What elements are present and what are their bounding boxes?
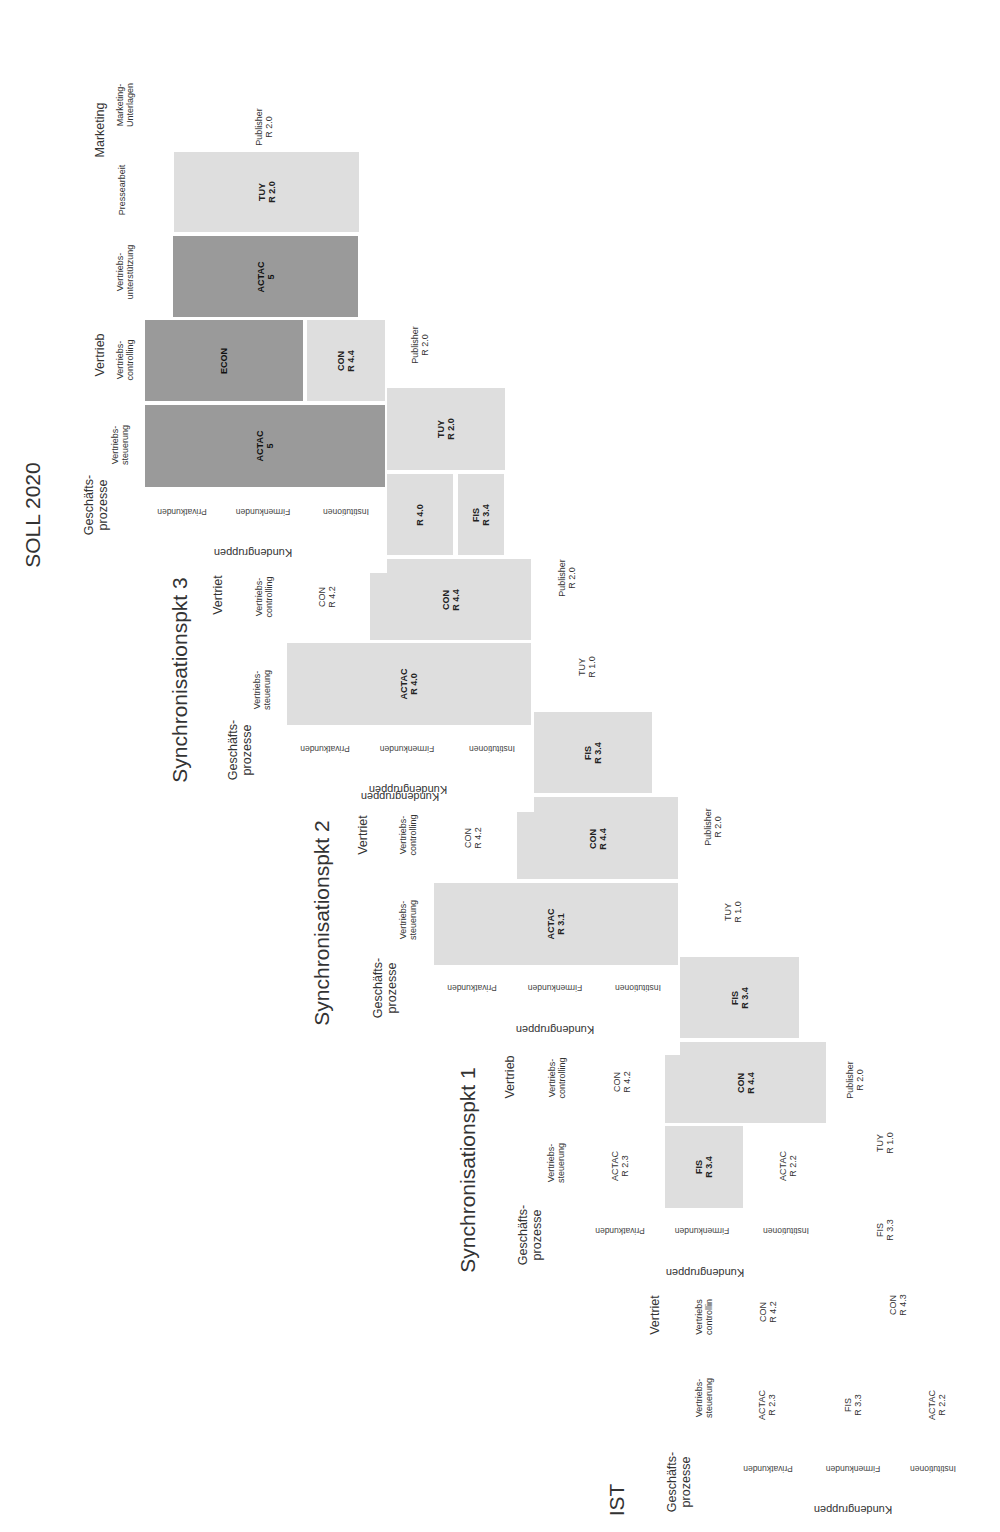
row-label-institutionen: Institutionen (469, 743, 515, 753)
cell-vu-actac: ACTAC 5 (173, 236, 358, 317)
pressearbeit-label: Pressearbeit (117, 165, 127, 216)
cell-tuy: TUY R 1.0 (577, 656, 598, 678)
cell-vs-actac: ACTAC R 3.1 (434, 883, 678, 965)
kundengruppen-label: Kundengruppen (214, 547, 292, 560)
row-label-institutionen: Institutionen (910, 1463, 956, 1473)
cell-vs-actac: ACTAC 5 (145, 405, 385, 487)
panel-title-sync3: Synchronisationspkt 3 (168, 577, 192, 782)
panel-title-sync1: Synchronisationspkt 1 (456, 1067, 480, 1272)
kundengruppen-top: Kundengruppen (361, 791, 439, 804)
cell-vs-fis: FIS R 3.4 (665, 1126, 743, 1208)
row-label-firmenkunden: Firmenkunden (675, 1225, 729, 1235)
vertriebscontrolling-label: Vertriebs- controlling (547, 1057, 568, 1098)
panel-title-sync2: Synchronisationspkt 2 (310, 820, 334, 1025)
cell-text: ACTAC R 3.1 (546, 909, 567, 940)
cell-text: FIS R 3.4 (471, 504, 492, 526)
row-label-institutionen: Institutionen (323, 506, 369, 516)
cell-vs-inst: ACTAC R 2.2 (778, 1151, 799, 1181)
cell-vc-priv: CON R 4.2 (612, 1071, 633, 1093)
geschaeftsprozesse-label: Geschäfts- prozesse (371, 958, 400, 1018)
vertriebscontrolling-label: Vertriebs- controlling (115, 339, 136, 380)
marketing-unterlagen-label: Marketing- Unterlagen (115, 83, 136, 127)
cell-vc-priv: CON R 4.2 (463, 827, 484, 849)
row-label-privatkunden: Privatkunden (595, 1225, 645, 1235)
vertriebscontrolling-label: Vertriebs- controlling (398, 814, 419, 855)
cell-vc-con-notch (534, 797, 678, 812)
cell-text: R 4.0 (415, 504, 425, 526)
kundengruppen-label: Kundengruppen (666, 1267, 744, 1280)
cell-presse-tuy: TUY R 2.0 (174, 152, 359, 232)
cell-vc-con: CON R 4.4 (307, 320, 385, 401)
vertriebssteuerung-label: Vertriebs- steuerung (546, 1143, 567, 1183)
cell-ext-tuy: TUY R 1.0 (875, 1132, 896, 1154)
cell-tuy: TUY R 2.0 (387, 388, 505, 470)
cell-text: TUY R 2.0 (436, 418, 457, 440)
cell-fis: FIS R 3.4 (680, 957, 799, 1038)
row-label-privatkunden: Privatkunden (743, 1463, 793, 1473)
cell-text: CON R 4.4 (336, 350, 357, 372)
cell-mu-publisher: Publisher R 2.0 (254, 108, 275, 146)
cell-publisher: Publisher R 2.0 (557, 559, 578, 597)
geschaeftsprozesse-label: Geschäfts- prozesse (82, 475, 111, 535)
row-label-firmenkunden: Firmenkunden (380, 743, 434, 753)
row-label-institutionen: Institutionen (615, 982, 661, 992)
cell-publisher: Publisher R 2.0 (703, 808, 724, 846)
cell-text: ACTAC 5 (255, 431, 276, 462)
vertriebssteuerung-label: Vertriebs- steuerung (398, 900, 419, 940)
cell-vs-priv: ACTAC R 2.3 (757, 1390, 778, 1420)
vertrieb-label: Vertrieb (503, 1055, 517, 1098)
cell-text: FIS R 3.4 (729, 987, 750, 1009)
cell-ext-fis: FIS R 3.3 (875, 1219, 896, 1241)
geschaeftsprozesse-label: Geschäfts- prozesse (226, 720, 255, 780)
vertriebssteuerung-label: Vertriebs- steuerung (694, 1378, 715, 1418)
vertriebssteuerung-label: Vertriebs- steuerung (110, 425, 131, 465)
cell-vs-firm: FIS R 3.3 (843, 1394, 864, 1416)
cell-vc-con-notch (680, 1042, 826, 1055)
row-label-privatkunden: Privatkunden (447, 982, 497, 992)
vertrieb-label: Vertriet (356, 815, 370, 855)
cell-text: ACTAC 5 (255, 261, 276, 292)
cell-vc-con-notch (387, 559, 531, 573)
cell-tuy: TUY R 1.0 (723, 901, 744, 923)
cell-vc-con: CON R 4.4 (517, 812, 678, 879)
cell-r40: R 4.0 (387, 474, 453, 555)
cell-vc-con: CON R 4.4 (665, 1055, 826, 1123)
cell-vc-priv: CON R 4.2 (317, 586, 338, 608)
row-label-firmenkunden: Firmenkunden (826, 1463, 880, 1473)
kundengruppen-label: Kundengruppen (516, 1024, 594, 1037)
cell-publisher: Publisher R 2.0 (410, 326, 431, 364)
vertrieb-label: Vertriet (211, 575, 225, 615)
cell-text: CON R 4.4 (440, 589, 461, 611)
cell-text: FIS R 3.4 (694, 1156, 715, 1178)
cell-vc-econ: ECON (145, 320, 303, 401)
row-label-privatkunden: Privatkunden (300, 743, 350, 753)
cell-vs-inst: ACTAC R 2.2 (927, 1390, 948, 1420)
marketing-label: Marketing (93, 103, 107, 158)
cell-vc-inst: CON R 4.3 (888, 1294, 909, 1316)
row-label-firmenkunden: Firmenkunden (236, 506, 290, 516)
vertriebscontrolling-label: Vertriebs controllin (694, 1299, 715, 1335)
cell-text: ACTAC R 4.0 (399, 669, 420, 700)
geschaeftsprozesse-label: Geschäfts- prozesse (665, 1452, 694, 1512)
cell-vc-con: CON R 4.4 (370, 573, 531, 640)
cell-text: CON R 4.4 (587, 828, 608, 850)
row-label-firmenkunden: Firmenkunden (528, 982, 582, 992)
cell-vs-actac: ACTAC R 4.0 (287, 643, 531, 725)
cell-publisher: Publisher R 2.0 (845, 1061, 866, 1099)
cell-fis: FIS R 3.4 (458, 474, 504, 555)
row-label-institutionen: Institutionen (763, 1225, 809, 1235)
cell-vs-priv: ACTAC R 2.3 (610, 1151, 631, 1181)
cell-text: CON R 4.4 (735, 1072, 756, 1094)
geschaeftsprozesse-label: Geschäfts- prozesse (516, 1205, 545, 1265)
vertrieb-label: Vertrieb (93, 333, 107, 376)
panel-title-ist: IST (605, 1484, 629, 1517)
cell-vc-priv: CON R 4.2 (758, 1301, 779, 1323)
row-label-privatkunden: Privatkunden (157, 506, 207, 516)
panel-title-soll: SOLL 2020 (21, 462, 45, 567)
cell-text: FIS R 3.4 (583, 742, 604, 764)
cell-text: TUY R 2.0 (256, 181, 277, 203)
kundengruppen-label: Kundengruppen (814, 1504, 892, 1517)
cell-text: ECON (219, 347, 229, 373)
cell-fis: FIS R 3.4 (534, 712, 652, 793)
vertriebssteuerung-label: Vertriebs- steuerung (252, 670, 273, 710)
